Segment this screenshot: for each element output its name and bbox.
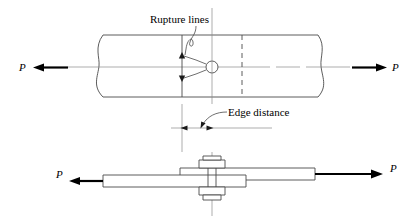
rupture-line-upper: [184, 56, 206, 64]
rupture-lines-label: Rupture lines: [150, 14, 209, 25]
force-arrow-bottom-right-head: [371, 170, 383, 179]
force-label-top-right: P: [392, 62, 399, 73]
edge-distance-leader: [203, 112, 227, 124]
dimension-arrowhead-right: [207, 125, 214, 130]
edge-distance-leader-arrowhead: [201, 122, 206, 129]
engineering-diagram-canvas: [0, 0, 417, 224]
plan-view-group: [33, 8, 387, 104]
plate-right-break-line: [318, 35, 324, 97]
force-label-bottom-left: P: [56, 169, 63, 180]
bolt-head-top: [203, 156, 221, 160]
plate-left-break-line: [96, 35, 103, 97]
rupture-arrowhead-upper: [179, 52, 185, 59]
force-arrow-top-left-head: [33, 64, 44, 72]
force-arrow-bottom-left-head: [69, 177, 80, 185]
dimension-arrowhead-left: [181, 125, 188, 130]
bolt-nut-bottom: [203, 195, 221, 200]
rupture-arrowhead-lower: [179, 76, 185, 83]
force-label-bottom-right: P: [390, 163, 397, 174]
rupture-lines-leader: [185, 26, 196, 55]
elevation-view-group: [69, 152, 383, 216]
bolt-head-washer-top: [199, 160, 225, 168]
edge-distance-label: Edge distance: [228, 107, 289, 118]
rupture-line-lower: [184, 70, 206, 78]
force-label-top-left: P: [19, 62, 26, 73]
lower-plate-outline: [103, 175, 246, 187]
force-arrow-top-right-head: [376, 64, 387, 72]
bolt-nut-washer-bottom: [199, 187, 225, 195]
figure-root: Rupture lines Edge distance P P P P: [0, 0, 417, 224]
